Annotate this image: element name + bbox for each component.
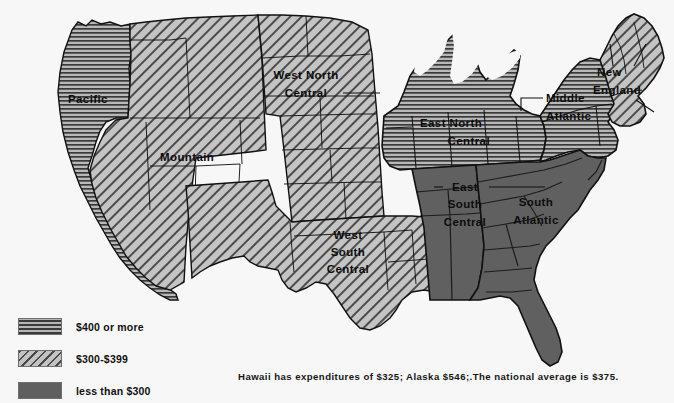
legend-item-less-than-300[interactable]: less than $300 [18, 380, 248, 401]
legend-swatch-diagonal-lines-icon [18, 350, 62, 367]
legend-item-300-to-399[interactable]: $300-$399 [18, 348, 248, 369]
region-south-atlantic[interactable] [470, 150, 606, 366]
svg-text:Pacific: Pacific [68, 93, 108, 105]
svg-text:East North: East North [420, 117, 482, 129]
legend-label-less-than-300: less than $300 [76, 385, 151, 397]
legend-swatch-horizontal-lines-icon [18, 318, 62, 335]
svg-text:New: New [597, 66, 622, 78]
svg-text:Central: Central [444, 216, 486, 228]
svg-text:Central: Central [285, 87, 327, 99]
legend-label-300-to-399: $300-$399 [76, 353, 128, 365]
legend-item-400-or-more[interactable]: $400 or more [18, 316, 248, 337]
svg-text:West North: West North [273, 69, 338, 81]
region-west-north-central[interactable] [258, 15, 384, 222]
svg-text:Atlantic: Atlantic [546, 110, 592, 122]
svg-text:South: South [331, 246, 366, 258]
svg-text:Central: Central [327, 263, 369, 275]
svg-text:Central: Central [448, 135, 490, 147]
svg-text:East: East [452, 181, 478, 193]
svg-text:Atlantic: Atlantic [513, 214, 559, 226]
svg-text:West: West [334, 229, 363, 241]
legend-swatch-solid-dark-icon [18, 382, 62, 399]
svg-text:South: South [519, 196, 554, 208]
legend: $400 or more $300-$399 less than $300 [18, 316, 248, 403]
svg-text:Middle: Middle [546, 92, 585, 104]
svg-text:England: England [593, 84, 641, 96]
label-mountain: Mountain [160, 151, 214, 163]
svg-text:South: South [448, 198, 483, 210]
footnote-text: Hawaii has expenditures of $325; Alaska … [238, 371, 619, 382]
legend-label-400-or-more: $400 or more [76, 321, 144, 333]
svg-text:Mountain: Mountain [160, 151, 214, 163]
label-pacific: Pacific [68, 93, 108, 105]
